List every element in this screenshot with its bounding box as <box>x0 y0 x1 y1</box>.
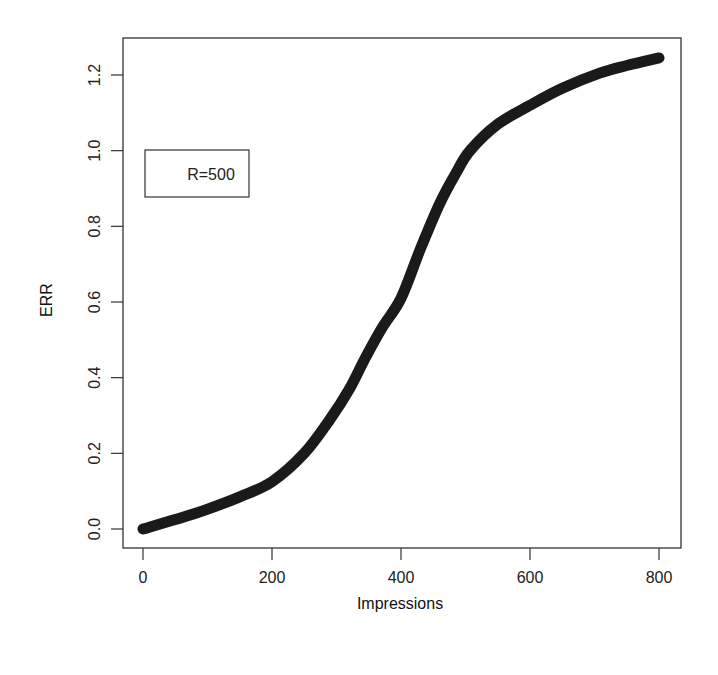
y-tick-label: 0.0 <box>86 518 103 540</box>
y-tick-label: 1.0 <box>86 139 103 161</box>
y-tick-label: 0.2 <box>86 442 103 464</box>
x-tick-label: 600 <box>517 569 544 586</box>
x-tick-label: 800 <box>646 569 673 586</box>
y-tick-label: 0.4 <box>86 366 103 388</box>
y-tick-label: 0.8 <box>86 215 103 237</box>
y-tick-label: 1.2 <box>86 64 103 86</box>
x-axis-label: Impressions <box>357 595 443 612</box>
x-tick-label: 0 <box>139 569 148 586</box>
x-tick-label: 400 <box>388 569 415 586</box>
chart-background <box>0 0 718 675</box>
y-tick-label: 0.6 <box>86 291 103 313</box>
y-axis-label: ERR <box>38 283 55 317</box>
legend: R=500 <box>145 150 249 197</box>
x-tick-label: 200 <box>259 569 286 586</box>
legend-entry: R=500 <box>187 166 235 183</box>
chart: 0200400600800 0.00.20.40.60.81.01.2 R=50… <box>0 0 718 675</box>
